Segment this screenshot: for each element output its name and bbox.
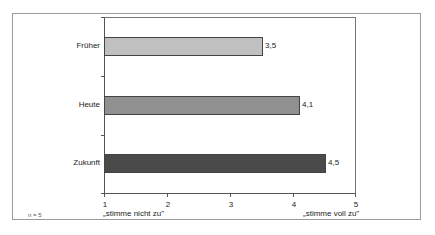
category-label-frueher: Früher (76, 41, 100, 50)
x-tick-label: 3 (229, 200, 233, 209)
x-tick (167, 194, 168, 197)
sample-size-note: n = 5 (28, 212, 42, 218)
x-tick (293, 194, 294, 197)
bar-zukunft (104, 154, 326, 173)
x-tick (355, 194, 356, 197)
y-tick (101, 17, 104, 18)
value-label-heute: 4,1 (302, 100, 313, 109)
x-tick-label: 5 (354, 200, 358, 209)
value-label-zukunft: 4,5 (328, 158, 339, 167)
x-axis-label-left: „stimme nicht zu" (103, 209, 164, 218)
bar-heute (104, 96, 300, 115)
category-label-zukunft: Zukunft (73, 158, 100, 167)
value-label-frueher: 3,5 (265, 41, 276, 50)
x-tick-label: 4 (292, 200, 296, 209)
bar-frueher (104, 37, 263, 56)
x-tick (104, 194, 105, 197)
category-label-heute: Heute (79, 100, 100, 109)
x-tick-label: 2 (166, 200, 170, 209)
x-tick-label: 1 (103, 200, 107, 209)
x-axis-label-right: „stimme voll zu" (303, 209, 359, 218)
y-tick (101, 135, 104, 136)
x-tick (230, 194, 231, 197)
y-tick (101, 76, 104, 77)
